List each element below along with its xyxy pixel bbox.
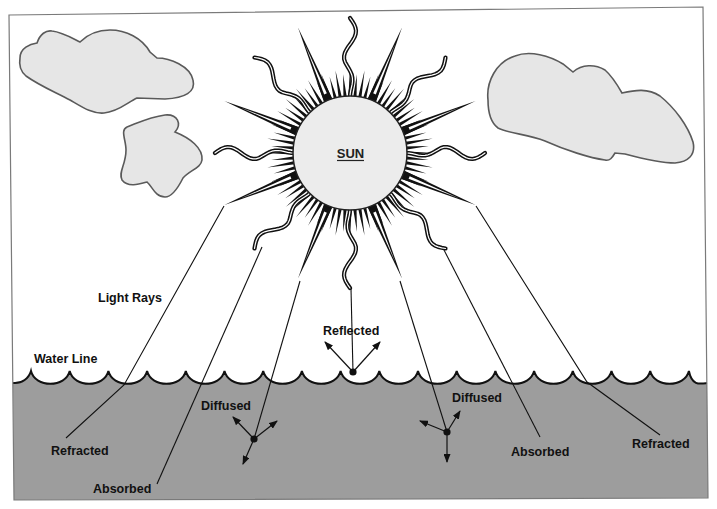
water-body (13, 371, 708, 500)
label-absorbed-right: Absorbed (511, 445, 569, 459)
sun-label: SUN (337, 146, 364, 161)
diffuse-right-dot (443, 428, 450, 435)
label-water-line: Water Line (34, 352, 97, 366)
reflect-dot (349, 368, 356, 375)
light-in-water-diagram: SUN Light Rays Water Line Reflected Diff… (0, 0, 717, 509)
label-refracted-right: Refracted (632, 437, 690, 451)
label-diffused-right: Diffused (452, 391, 502, 405)
diffuse-left-dot (250, 435, 257, 442)
label-diffused-left: Diffused (201, 399, 251, 413)
label-refracted-left: Refracted (51, 444, 109, 458)
label-absorbed-left: Absorbed (93, 482, 151, 496)
label-light-rays: Light Rays (98, 291, 162, 305)
label-reflected: Reflected (323, 324, 379, 338)
